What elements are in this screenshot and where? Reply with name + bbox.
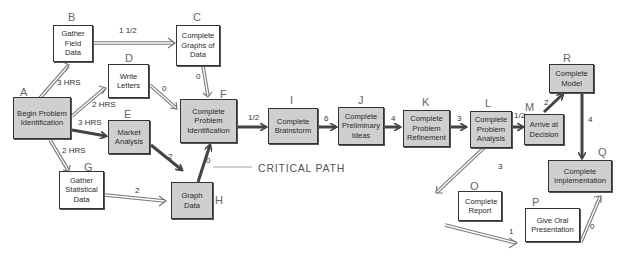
node-label: Complete Problem Refinement <box>405 114 448 143</box>
node-j: Complete Preliminary Ideas <box>338 107 384 145</box>
node-r: Complete Model <box>549 64 594 93</box>
edge-label-o-p: 1 <box>509 227 513 236</box>
letter-g: G <box>84 161 93 173</box>
letter-r: R <box>563 52 571 64</box>
node-o: Complete Report <box>458 191 502 221</box>
node-l: Complete Problem Analysis <box>470 111 512 148</box>
edge-label-m-r: 2 <box>544 98 548 107</box>
node-label: Write Letters <box>114 72 144 91</box>
edge-label-p-q: 0 <box>590 222 594 231</box>
edge-label-d-f: 0 <box>162 84 166 93</box>
node-label: Complete Problem Identification <box>182 107 235 136</box>
node-g: Gather Statistical Data <box>59 171 104 209</box>
node-d: Write Letters <box>108 64 149 98</box>
node-label: Complete Report <box>465 197 495 216</box>
node-label: Market Analysis <box>111 128 147 147</box>
edge-label-k-l: 3 <box>457 114 461 123</box>
edge-label-a-e: 3 HRS <box>78 118 102 127</box>
node-label: Graph Data <box>180 191 204 210</box>
node-b: Gather Field Data <box>53 25 93 62</box>
letter-o: O <box>470 180 479 192</box>
node-label: Complete Brainstorm <box>270 117 316 136</box>
edge-label-a-g: 2 HRS <box>62 146 86 155</box>
edge-label-e-h: 2 <box>168 152 172 161</box>
node-f: Complete Problem Identification <box>180 99 237 143</box>
node-k: Complete Problem Refinement <box>403 110 450 147</box>
edge-label-f-i: 1/2 <box>248 113 259 122</box>
node-label: Arrive at Decision <box>529 120 559 139</box>
letter-i: I <box>290 94 293 106</box>
edge-label-a-b: 3 HRS <box>57 78 81 87</box>
edge-label-m-o: 3 <box>498 162 502 171</box>
node-label: Complete Model <box>555 69 589 88</box>
letter-e: E <box>124 108 131 120</box>
node-label: Gather Field Data <box>56 29 90 58</box>
node-e: Market Analysis <box>108 120 150 154</box>
node-h: Graph Data <box>171 182 213 219</box>
edge-label-l-m: 1/2 <box>514 111 525 120</box>
letter-h: H <box>215 194 223 206</box>
node-a: Begin Problem Identification <box>13 97 71 139</box>
edge-label-b-c: 1 1/2 <box>119 26 137 35</box>
letter-j: J <box>358 94 364 106</box>
node-label: Complete Preliminary Ideas <box>340 112 382 141</box>
node-i: Complete Brainstorm <box>268 108 318 144</box>
edge-label-j-k: 4 <box>391 114 395 123</box>
letter-c: C <box>193 11 201 23</box>
edge-label-a-d: 2 HRS <box>92 100 116 109</box>
letter-k: K <box>422 96 429 108</box>
edge-label-i-j: 6 <box>324 114 328 123</box>
node-label: Complete Graphs of Data <box>179 31 217 60</box>
node-label: Gather Statistical Data <box>61 176 102 205</box>
edge-label-r-q: 4 <box>588 115 592 124</box>
node-c: Complete Graphs of Data <box>176 25 220 66</box>
node-label: Complete Problem Analysis <box>474 115 508 144</box>
letter-p: P <box>532 196 539 208</box>
node-q: Complete Implementation <box>548 160 612 192</box>
critical-path-label: CRITICAL PATH <box>258 162 345 174</box>
node-label: Begin Problem Identification <box>15 109 69 128</box>
edge-label-g-h: 2 <box>135 186 139 195</box>
node-label: Complete Implementation <box>550 167 610 186</box>
letter-f: F <box>220 88 227 100</box>
node-p: Give Oral Presentation <box>525 208 580 242</box>
node-m: Arrive at Decision <box>524 114 564 145</box>
edge-label-h-f: 0 <box>206 156 210 165</box>
node-label: Give Oral Presentation <box>527 216 578 235</box>
letter-d: D <box>125 52 133 64</box>
letter-q: Q <box>598 146 607 158</box>
letter-b: B <box>68 11 75 23</box>
letter-a: A <box>20 86 27 98</box>
edge-label-c-f: 0 <box>196 72 200 81</box>
letter-m: M <box>525 101 534 113</box>
letter-l: L <box>485 97 491 109</box>
